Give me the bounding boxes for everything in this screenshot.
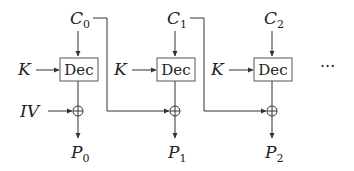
xor-icon-0: [73, 106, 83, 116]
column-1: C1 K Dec P1: [113, 8, 266, 165]
plaintext-label-2: P2: [264, 142, 283, 165]
iv-label: IV: [19, 101, 41, 121]
dec-label-1: Dec: [161, 61, 190, 79]
ciphertext-label-1: C1: [167, 8, 187, 31]
column-0: C0 K Dec IV P0: [17, 8, 169, 165]
plaintext-label-1: P1: [167, 142, 186, 165]
key-label-0: K: [17, 59, 32, 79]
ciphertext-label-0: C0: [70, 8, 90, 31]
dec-label-2: Dec: [258, 61, 287, 79]
xor-icon-1: [170, 106, 180, 116]
key-label-1: K: [113, 59, 128, 79]
ellipsis: ···: [320, 57, 335, 76]
ciphertext-label-2: C2: [264, 8, 284, 31]
key-label-2: K: [210, 59, 225, 79]
xor-icon-2: [267, 106, 277, 116]
column-2: C2 K Dec P2: [210, 8, 292, 165]
plaintext-label-0: P0: [70, 142, 89, 165]
cbc-decryption-diagram: C0 K Dec IV P0 C1 K Dec P1: [0, 0, 354, 171]
dec-label-0: Dec: [64, 61, 93, 79]
